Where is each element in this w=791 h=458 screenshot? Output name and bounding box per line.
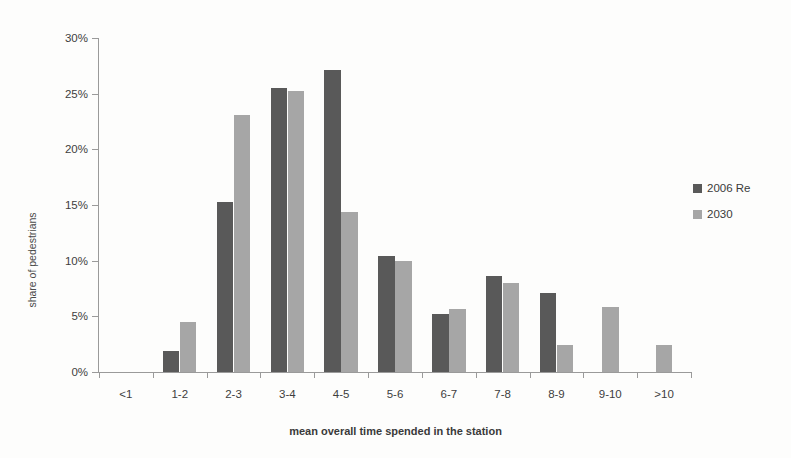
x-axis-label-1: <1 <box>119 388 132 400</box>
x-tick-mark <box>153 372 154 378</box>
bar-2030-9-10 <box>602 307 619 372</box>
x-tick-mark <box>530 372 531 378</box>
x-tick-mark <box>207 372 208 378</box>
y-tick-label: 0% <box>71 366 88 378</box>
x-axis-title: mean overall time spended in the station <box>0 425 791 437</box>
bar-2030-7-8 <box>503 283 520 372</box>
bar-2030-10 <box>656 345 673 372</box>
bar-2006-Re-2-3 <box>217 202 234 372</box>
bar-2030-1-2 <box>180 322 197 372</box>
x-tick-mark <box>637 372 638 378</box>
y-tick-label: 30% <box>65 32 88 44</box>
x-axis-label-6-7: 6-7 <box>441 388 458 400</box>
x-axis-label-3-4: 3-4 <box>279 388 296 400</box>
bar-2006-Re-1-2 <box>163 351 180 372</box>
x-axis-label-4-5: 4-5 <box>333 388 350 400</box>
x-axis-line <box>98 372 691 373</box>
x-axis-label-2-3: 2-3 <box>225 388 242 400</box>
bar-2030-8-9 <box>557 345 574 372</box>
y-tick-mark <box>92 372 98 373</box>
x-tick-mark <box>260 372 261 378</box>
x-axis-label-9-10: 9-10 <box>599 388 622 400</box>
y-axis-line <box>98 38 99 372</box>
legend-label: 2030 <box>707 208 733 220</box>
x-axis-label-5-6: 5-6 <box>387 388 404 400</box>
bar-chart: share of pedestrians 0%5%10%15%20%25%30%… <box>0 0 791 458</box>
bar-2006-Re-7-8 <box>486 276 503 372</box>
x-axis-label-10: >10 <box>654 388 674 400</box>
y-tick-label: 5% <box>71 310 88 322</box>
bar-2030-6-7 <box>449 309 466 372</box>
bar-2006-Re-5-6 <box>378 256 395 372</box>
bar-2006-Re-3-4 <box>271 88 288 372</box>
y-tick-mark <box>92 149 98 150</box>
bar-2006-Re-6-7 <box>432 314 449 372</box>
y-tick-mark <box>92 94 98 95</box>
plot-area: 0%5%10%15%20%25%30% <11-22-33-44-55-66-7… <box>99 38 691 372</box>
bar-2006-Re-8-9 <box>540 293 557 372</box>
y-tick-label: 15% <box>65 199 88 211</box>
bar-2030-2-3 <box>234 115 251 372</box>
x-tick-mark <box>422 372 423 378</box>
y-tick-mark <box>92 261 98 262</box>
y-tick-mark <box>92 38 98 39</box>
x-axis-label-7-8: 7-8 <box>494 388 511 400</box>
bar-2030-5-6 <box>395 261 412 372</box>
y-tick-mark <box>92 205 98 206</box>
x-tick-mark <box>314 372 315 378</box>
x-tick-mark <box>368 372 369 378</box>
y-tick-mark <box>92 316 98 317</box>
x-tick-mark <box>476 372 477 378</box>
x-axis-label-1-2: 1-2 <box>171 388 188 400</box>
y-tick-label: 10% <box>65 255 88 267</box>
y-axis-title-text: share of pedestrians <box>26 212 38 307</box>
x-axis-label-8-9: 8-9 <box>548 388 565 400</box>
y-tick-label: 20% <box>65 143 88 155</box>
legend-label: 2006 Re <box>707 182 750 194</box>
x-tick-mark <box>99 372 100 378</box>
legend-item-2030: 2030 <box>693 208 750 220</box>
x-tick-mark <box>691 372 692 378</box>
legend-item-2006-Re: 2006 Re <box>693 182 750 194</box>
y-axis-title: share of pedestrians <box>24 180 40 340</box>
legend-swatch-icon <box>693 184 702 193</box>
chart-legend: 2006 Re2030 <box>693 182 750 234</box>
y-tick-label: 25% <box>65 88 88 100</box>
x-tick-mark <box>583 372 584 378</box>
bar-2030-4-5 <box>341 212 358 372</box>
legend-swatch-icon <box>693 210 702 219</box>
bar-2006-Re-4-5 <box>324 70 341 372</box>
bar-2030-3-4 <box>288 91 305 372</box>
